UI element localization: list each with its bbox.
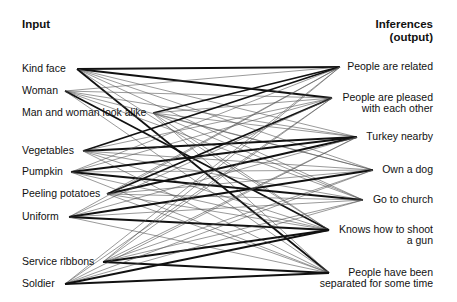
input-node-look-alike: Man and woman look alike (22, 107, 146, 118)
output-node-pleased: People are pleased with each other (343, 92, 434, 114)
connection-line (65, 230, 329, 284)
output-node-turkey: Turkey nearby (366, 131, 433, 142)
connection-line (65, 91, 332, 98)
input-node-service-ribbons: Service ribbons (22, 256, 94, 267)
input-node-vegetables: Vegetables (22, 145, 74, 156)
output-node-related: People are related (347, 61, 433, 72)
output-node-dog: Own a dog (382, 164, 433, 175)
input-node-peeling-potatoes: Peeling potatoes (22, 188, 100, 199)
output-label-line: Turkey nearby (366, 131, 433, 142)
output-node-church: Go to church (373, 194, 433, 205)
connection-line (69, 200, 363, 217)
connection-line (77, 69, 373, 170)
output-node-shoot: Knows how to shoot a gun (339, 224, 433, 246)
input-node-uniform: Uniform (22, 211, 59, 222)
input-node-soldier: Soldier (22, 278, 55, 289)
input-node-woman: Woman (22, 85, 58, 96)
connection-line (65, 273, 329, 284)
input-node-pumpkin: Pumpkin (22, 166, 63, 177)
output-label-line: with each other (343, 103, 434, 114)
output-node-separated: People have been separated for some time (320, 267, 433, 289)
output-label-line: a gun (339, 235, 433, 246)
connection-line (69, 217, 329, 273)
output-label-line: separated for some time (320, 278, 433, 289)
connection-line (71, 170, 373, 172)
output-label-line: Own a dog (382, 164, 433, 175)
output-label-line: Go to church (373, 194, 433, 205)
connection-line (65, 200, 363, 284)
connection-line (77, 69, 363, 200)
input-node-kind-face: Kind face (22, 63, 66, 74)
connection-line (77, 67, 340, 69)
output-label-line: People are related (347, 61, 433, 72)
